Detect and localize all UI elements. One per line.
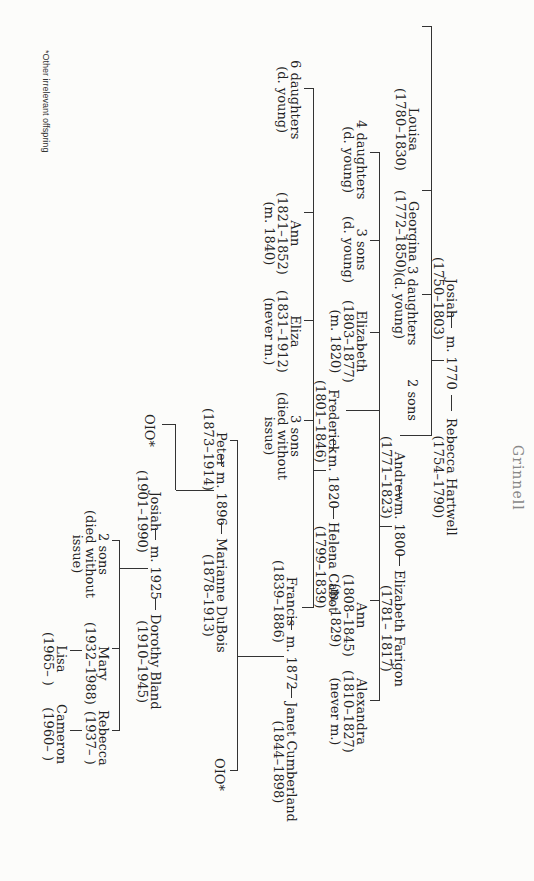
- marriage-dash: [333, 507, 334, 519]
- descent-line: [432, 360, 444, 361]
- person-mary: Mary (1932–1988): [84, 622, 110, 705]
- child-tick: [304, 420, 314, 421]
- person-rebecca-1937: Rebecca (1937– ): [84, 710, 110, 766]
- child-tick: [230, 770, 238, 771]
- child-tick: [346, 410, 380, 411]
- marriage-dash: [399, 486, 400, 498]
- child-tick: [422, 26, 432, 27]
- family-tree-page: Grinnell Josiah (1750–1803) m. 1770 Rebe…: [0, 0, 534, 881]
- descent-line: [314, 470, 326, 471]
- marriage-dash: [155, 598, 156, 610]
- marriage-dash: [155, 528, 156, 540]
- person-alexandra: Alexandra (1810–1827) (never m.): [329, 670, 368, 753]
- child-tick: [304, 212, 314, 213]
- child-tick: [370, 700, 380, 701]
- descent-line: [120, 568, 148, 569]
- child-tick: [302, 607, 314, 608]
- child-tick: [304, 320, 314, 321]
- person-marianne-dubois: Marianne DuBois (1878–1913): [202, 538, 228, 653]
- marriage-1820: m. 1820: [327, 455, 340, 509]
- child-tick: [370, 600, 380, 601]
- marriage-dash: [291, 618, 292, 630]
- child-tick: [422, 190, 432, 191]
- sibling-bar: [379, 152, 380, 700]
- marriage-1872: m. 1872: [285, 636, 298, 690]
- person-elizabeth-1803: Elizabeth (1803–1877) (m. 1820): [329, 300, 368, 383]
- person-francis: Francis (1839–1886): [272, 560, 298, 643]
- person-cameron: Cameron (1960– ): [42, 704, 68, 764]
- descent-line: [238, 656, 284, 657]
- person-helena-cabot: Helena Cabot (1799–1839): [314, 522, 340, 612]
- person-elizabeth-farigon: Elizabeth Farigon (1781– 1817): [380, 570, 406, 687]
- group-2-sons: 2 sons: [406, 379, 419, 421]
- sibling-bar: [119, 540, 120, 730]
- sibling-bar: [431, 26, 432, 436]
- person-dorothy-bland: Dorothy Bland (1910–1945): [136, 614, 162, 710]
- person-rebecca-hartwell: Rebecca Hartwell (1754–1790): [432, 418, 458, 536]
- marriage-dash: [399, 554, 400, 566]
- sibling-bar: [237, 440, 238, 770]
- descent-line: [380, 526, 392, 527]
- title-fragment: Grinnell: [510, 445, 526, 511]
- marriage-dash: [221, 454, 222, 466]
- child-tick: [370, 240, 380, 241]
- child-tick: [370, 152, 380, 153]
- oio-marker-1: OIO*: [213, 758, 226, 791]
- sibling-bar: [313, 88, 314, 608]
- child-tick: [112, 730, 120, 731]
- child-tick: [112, 648, 120, 649]
- group-3-sons: 3 sons (d. young): [342, 216, 368, 283]
- marriage-1896: m. 1896: [215, 472, 228, 526]
- person-ann-1821: Ann (1821–1852) (m. 1840): [263, 192, 302, 275]
- descent-line: [70, 730, 82, 731]
- marriage-dash: [221, 522, 222, 534]
- group-6-daughters: 6 daughters (d. young): [276, 60, 302, 139]
- marriage-dash: [451, 312, 452, 328]
- footnote: *Other irrelevant offspring: [41, 50, 51, 152]
- group-2-sons-no-issue: 2 sons (died without issue): [71, 510, 110, 598]
- group-3-sons-no-issue: 3 sons (died without issue): [263, 392, 302, 480]
- oio-marker-2: OIO*: [143, 414, 156, 447]
- child-tick: [370, 332, 380, 333]
- child-tick: [112, 540, 120, 541]
- person-lisa: Lisa (1965– ): [42, 632, 68, 686]
- marriage-dash: [333, 438, 334, 450]
- group-4-daughters: 4 daughters (d. young): [342, 120, 368, 199]
- marriage-1770: m. 1770: [445, 336, 458, 390]
- sibling-bar: [175, 424, 176, 490]
- person-josiah-1901: Josiah (1901–1990): [136, 470, 162, 553]
- child-tick: [162, 424, 176, 425]
- marriage-1800: m. 1800: [393, 503, 406, 557]
- marriage-dash: [291, 686, 292, 698]
- child-tick: [304, 88, 314, 89]
- group-3-daughters: 3 daughters (d. young): [393, 266, 419, 345]
- child-tick: [422, 294, 432, 295]
- person-janet-cumberland: Janet Cumberland (1844–1898): [272, 702, 298, 822]
- descent-line: [70, 650, 82, 651]
- person-eliza: Eliza (1831–1912) (never m.): [263, 290, 302, 373]
- person-georgina: Georgina (1772–1850): [394, 190, 420, 273]
- child-tick: [230, 440, 238, 441]
- marriage-1925: m. 1925: [149, 546, 162, 600]
- person-louisa: Louisa (1780–1830): [394, 88, 420, 171]
- descent-line: [176, 490, 214, 491]
- person-frederick: Frederick (1801–1846): [314, 380, 340, 463]
- person-josiah-1750: Josiah (1750–1803): [432, 257, 458, 340]
- marriage-dash: [451, 395, 452, 411]
